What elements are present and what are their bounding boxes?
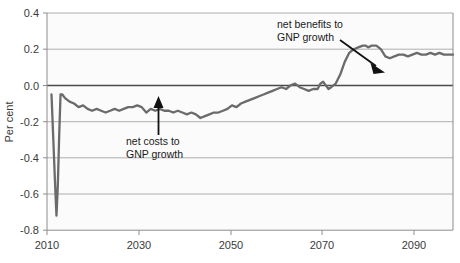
net-costs-annotation-line2: GNP growth [126, 148, 183, 160]
y-tick-marks [43, 13, 47, 230]
x-tick-label-2030: 2030 [127, 239, 151, 251]
y-tick-label-2: 0.0 [24, 80, 39, 92]
chart-canvas: 0.4 0.2 0.0 -0.2 -0.4 -0.6 -0.8 2010 203… [0, 0, 460, 263]
x-tick-label-2050: 2050 [219, 239, 243, 251]
y-tick-label-6: -0.8 [20, 224, 39, 236]
y-tick-label-5: -0.6 [20, 188, 39, 200]
x-tick-label-2090: 2090 [402, 239, 426, 251]
net-benefits-annotation-line1: net benefits to [277, 18, 343, 30]
chart-figure: 0.4 0.2 0.0 -0.2 -0.4 -0.6 -0.8 2010 203… [0, 0, 460, 263]
x-tick-label-2010: 2010 [35, 239, 59, 251]
y-tick-label-4: -0.4 [20, 152, 39, 164]
x-tick-marks [47, 230, 414, 235]
y-tick-label-0: 0.4 [24, 7, 39, 19]
net-costs-annotation-line1: net costs to [126, 135, 180, 147]
y-tick-label-3: -0.2 [20, 116, 39, 128]
x-tick-label-2070: 2070 [310, 239, 334, 251]
net-benefits-annotation-line2: GNP growth [277, 31, 334, 43]
y-tick-label-1: 0.2 [24, 43, 39, 55]
y-axis-title: Per cent [3, 102, 15, 143]
